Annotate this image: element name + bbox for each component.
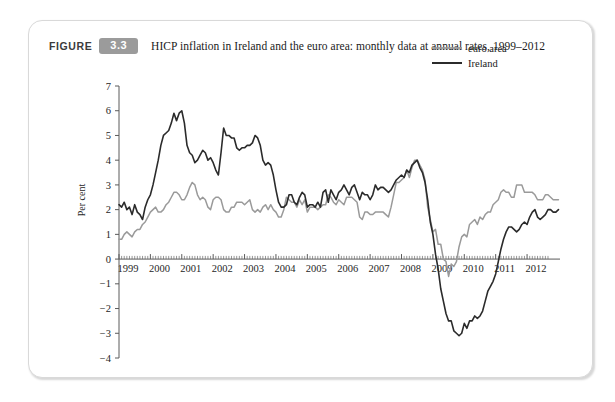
x-tick-label: 2008 [400, 263, 421, 274]
legend-label-ireland: Ireland [468, 58, 498, 69]
y-tick-label: 1 [106, 229, 111, 240]
x-tick-label: 2002 [212, 263, 233, 274]
y-tick-label: −1 [100, 278, 111, 289]
series-line-ireland [119, 111, 558, 336]
x-tick-label: 2004 [274, 263, 296, 274]
x-tick-label: 2007 [369, 263, 390, 274]
x-tick-label: 2006 [337, 263, 358, 274]
y-tick-label: 3 [106, 180, 111, 191]
x-tick-label: 2005 [306, 263, 327, 274]
y-tick-label: −3 [100, 328, 111, 339]
y-tick-label: −2 [100, 303, 111, 314]
x-tick-label: 2010 [463, 263, 484, 274]
y-tick-label: 6 [106, 105, 111, 116]
y-tick-label: 0 [106, 254, 111, 265]
x-tick-label: 2000 [149, 263, 170, 274]
x-tick-label: 2001 [180, 263, 201, 274]
y-tick-label: 7 [106, 81, 111, 92]
x-tick-label: 2003 [243, 263, 264, 274]
figure-card: FIGURE 3.3 HICP inflation in Ireland and… [28, 20, 593, 378]
inflation-line-chart: 76543210−1−2−3−4Per cent1999200020012002… [29, 21, 594, 379]
y-axis-title: Per cent [76, 184, 87, 217]
x-tick-label: 1999 [118, 263, 139, 274]
y-tick-label: −4 [100, 353, 112, 364]
y-tick-label: 4 [106, 155, 112, 166]
y-tick-label: 2 [106, 204, 111, 215]
legend-label-euro-area: euro area [468, 43, 507, 54]
chart-plot-area: 76543210−1−2−3−4Per cent1999200020012002… [29, 21, 594, 379]
y-tick-label: 5 [106, 130, 111, 141]
x-tick-label: 2012 [526, 263, 547, 274]
